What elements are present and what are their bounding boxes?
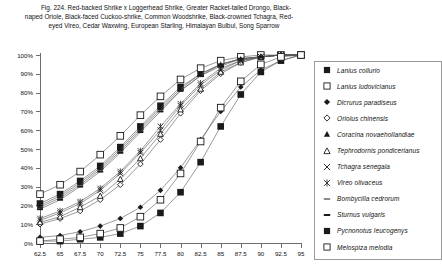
marker-asterisk xyxy=(158,123,164,129)
marker-filled-square xyxy=(197,159,204,166)
legend-item-label: Coracina novaehollandiae xyxy=(337,131,415,138)
legend-item: Coracina novaehollandiae xyxy=(315,126,441,142)
filled-square-icon xyxy=(321,224,337,238)
marker-open-square xyxy=(177,170,184,177)
legend-item-label: Tephrodornis pondicerianus xyxy=(337,147,420,154)
series-melospiza-melodia xyxy=(37,52,305,245)
figure-caption: Fig. 224. Red-backed Shrike x Loggerhead… xyxy=(0,3,318,31)
legend-item: Vireo olivaceus xyxy=(315,175,441,191)
marker-open-square xyxy=(117,225,124,232)
open-square-icon xyxy=(321,240,337,254)
marker-open-triangle xyxy=(324,147,330,153)
legend-item-label: Tchagra senegala xyxy=(337,163,390,170)
marker-filled-square xyxy=(137,223,144,230)
marker-filled-square xyxy=(217,123,224,130)
marker-filled-square xyxy=(324,228,330,234)
legend-item: Lanius ludovicianus xyxy=(315,78,441,94)
series-lanius-ludovicianus xyxy=(37,52,305,198)
marker-filled-square xyxy=(258,69,265,76)
marker-open-square xyxy=(217,104,224,111)
filled-triangle-icon xyxy=(321,127,337,141)
marker-open-square xyxy=(157,93,164,100)
legend-item: Pycnonotus leucogenys xyxy=(315,223,441,239)
marker-filled-square xyxy=(237,91,244,98)
legend-item: Sturnus vulgaris xyxy=(315,207,441,223)
marker-filled-diamond xyxy=(97,223,103,229)
marker-open-square xyxy=(37,238,44,245)
legend-item-label: Sturnus vulgaris xyxy=(337,211,385,218)
legend-item: Dicrurus paradiseus xyxy=(315,94,441,110)
marker-open-square xyxy=(298,52,305,59)
marker-open-square xyxy=(177,76,184,83)
cross-x-icon xyxy=(321,160,337,174)
legend-item-label: Lanius collurio xyxy=(337,67,380,74)
marker-filled-diamond xyxy=(324,99,330,105)
marker-filled-square xyxy=(324,67,330,73)
marker-open-square xyxy=(77,234,84,241)
series-vireo-olivaceus xyxy=(37,52,304,222)
marker-cross-x xyxy=(324,164,330,170)
marker-open-square xyxy=(237,78,244,85)
chart-area: 0%10%20%30%40%50%60%70%80%90%100% 62.565… xyxy=(0,47,314,271)
open-triangle-icon xyxy=(321,144,337,158)
marker-open-square xyxy=(97,230,104,237)
legend-item: Bombycilla cedrorum xyxy=(315,191,441,207)
open-square-icon xyxy=(321,79,337,93)
series-sturnus-vulgaris xyxy=(37,55,304,209)
data-curves xyxy=(0,47,314,271)
series-lanius-collurio xyxy=(37,52,305,207)
caption-line-2: naped Oriole, Black-faced Cuckoo-shrike,… xyxy=(0,12,318,21)
caption-line-1: Fig. 224. Red-backed Shrike x Loggerhead… xyxy=(0,3,318,12)
marker-open-square xyxy=(258,61,265,68)
series-pycnonotus-leucogenys xyxy=(37,52,305,245)
marker-open-square xyxy=(278,54,285,61)
legend-item: Oriolus chinensis xyxy=(315,110,441,126)
marker-open-square xyxy=(37,191,44,198)
legend-item-label: Dicrurus paradiseus xyxy=(337,99,397,106)
filled-square-icon xyxy=(321,63,337,77)
legend-item: Melospiza melodia xyxy=(315,239,441,255)
legend-item-label: Bombycilla cedrorum xyxy=(337,195,400,202)
legend-item: Tephrodornis pondicerianus xyxy=(315,142,441,158)
marker-filled-triangle xyxy=(324,131,330,137)
series-oriolus-chinensis xyxy=(37,52,304,227)
series-tephrodornis-pondicerianus xyxy=(37,52,304,225)
marker-open-square xyxy=(324,83,330,89)
marker-open-square xyxy=(57,236,64,243)
marker-open-square xyxy=(324,244,330,250)
legend-item-label: Melospiza melodia xyxy=(337,244,393,251)
marker-open-square xyxy=(137,213,144,220)
marker-filled-square xyxy=(177,189,184,196)
caption-line-3: eyed Vireo, Cedar Waxwing, European Star… xyxy=(0,21,318,30)
marker-open-square xyxy=(157,196,164,203)
marker-open-square xyxy=(197,65,204,72)
legend-item-label: Pycnonotus leucogenys xyxy=(337,227,408,234)
marker-asterisk xyxy=(324,179,330,186)
marker-open-square xyxy=(137,112,144,119)
marker-filled-diamond xyxy=(118,216,124,222)
legend-item-label: Lanius ludovicianus xyxy=(337,83,396,90)
legend-box: Lanius collurioLanius ludovicianusDicrur… xyxy=(314,61,442,260)
marker-open-diamond xyxy=(324,115,330,121)
filled-diamond-icon xyxy=(321,95,337,109)
open-diamond-icon xyxy=(321,111,337,125)
thick-dash-icon xyxy=(321,208,337,222)
marker-open-square xyxy=(57,181,64,188)
legend-item-label: Oriolus chinensis xyxy=(337,115,388,122)
marker-open-square xyxy=(197,138,204,145)
marker-open-square xyxy=(97,151,104,158)
series-bombycilla-cedrorum xyxy=(37,55,304,207)
legend-item: Lanius collurio xyxy=(315,62,441,78)
asterisk-icon xyxy=(321,176,337,190)
thin-dash-icon xyxy=(321,192,337,206)
legend-item: Tchagra senegala xyxy=(315,159,441,175)
marker-open-square xyxy=(117,133,124,140)
marker-open-square xyxy=(77,168,84,175)
series-tchagra-senegala xyxy=(37,52,304,223)
legend-item-label: Vireo olivaceus xyxy=(337,179,382,186)
marker-filled-square xyxy=(157,210,164,217)
